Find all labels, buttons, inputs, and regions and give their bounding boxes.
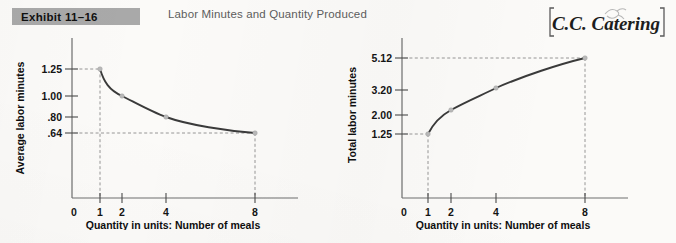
x-axis-title: Quantity in units: Number of meals <box>86 219 261 230</box>
data-point <box>98 67 103 72</box>
chart-average-labor-minutes: 1.25 1.00 .80 .64 0 1 2 4 8 Quantity in … <box>8 30 318 230</box>
y-axis-title: Average labor minutes <box>14 61 26 174</box>
x-tick-label: 1 <box>425 206 431 218</box>
data-point <box>253 131 258 136</box>
y-axis-title: Total labor minutes <box>346 67 358 163</box>
chart-total-labor-minutes: 5.12 3.20 2.00 1.25 0 1 2 4 8 Quantity i… <box>340 30 650 230</box>
logo-bracket-right <box>660 8 664 36</box>
y-tick-label: 3.20 <box>372 84 393 96</box>
data-point <box>494 86 499 91</box>
exhibit-badge: Exhibit 11–16 <box>12 8 140 25</box>
x-tick-label: 0 <box>71 206 77 218</box>
exhibit-label: Exhibit 11–16 <box>21 11 98 23</box>
x-tick-label: 0 <box>401 206 407 218</box>
exhibit-page: Exhibit 11–16 Labor Minutes and Quantity… <box>0 0 676 243</box>
y-tick-label: 1.25 <box>42 63 63 75</box>
x-tick-label: 1 <box>97 206 103 218</box>
y-tick-label: 5.12 <box>372 52 393 64</box>
y-tick-label: 1.25 <box>372 128 393 140</box>
data-markers <box>426 56 588 137</box>
x-tick-label: 2 <box>119 206 125 218</box>
guide-lines <box>74 69 255 198</box>
x-axis-title: Quantity in units: Number of meals <box>416 219 591 230</box>
data-markers <box>98 67 258 136</box>
x-tick-label: 2 <box>448 206 454 218</box>
exhibit-title: Labor Minutes and Quantity Produced <box>168 8 367 20</box>
y-tick-label: .80 <box>47 111 62 123</box>
x-tick-label: 8 <box>582 206 588 218</box>
data-point <box>583 56 588 61</box>
data-curve <box>428 58 585 134</box>
y-tick-label: 2.00 <box>372 109 393 121</box>
data-curve <box>100 69 255 133</box>
data-point <box>164 115 169 120</box>
x-tick-label: 4 <box>493 206 499 218</box>
x-tick-label: 8 <box>252 206 258 218</box>
x-tick-label: 4 <box>163 206 169 218</box>
data-point <box>449 108 454 113</box>
data-point <box>120 94 125 99</box>
y-tick-label: .64 <box>47 127 62 139</box>
y-tick-label: 1.00 <box>42 90 63 102</box>
data-point <box>426 132 431 137</box>
